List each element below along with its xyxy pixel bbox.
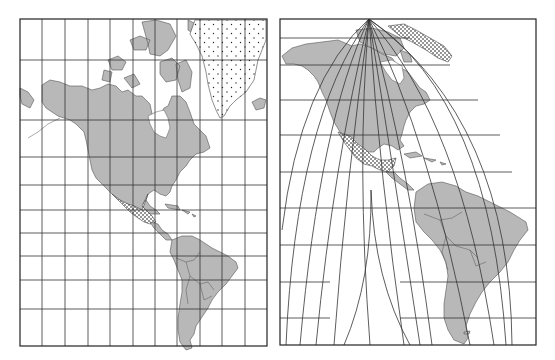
polyconic-map (275, 0, 555, 360)
south-america-landmass (170, 236, 238, 350)
central-america (150, 222, 172, 240)
right-map-panel (275, 0, 555, 360)
left-map-panel (0, 0, 275, 360)
central-america-right (386, 172, 414, 190)
caribbean-islands (165, 204, 196, 217)
cylindrical-map (0, 0, 275, 360)
arctic-islands (102, 20, 196, 92)
iceland (252, 98, 266, 110)
south-america-landmass-right (414, 182, 528, 344)
north-america-landmass (42, 80, 210, 214)
siberia-edge (20, 88, 34, 108)
aleutian-islands (28, 118, 60, 138)
